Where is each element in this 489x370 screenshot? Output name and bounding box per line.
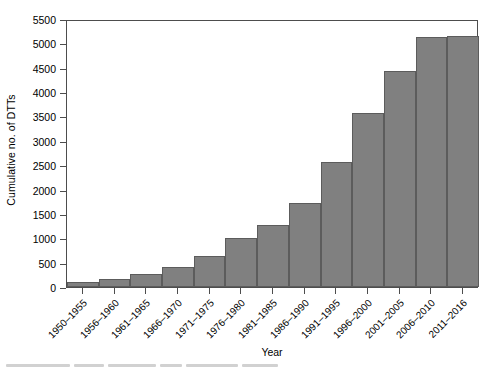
caption-smudge	[242, 364, 278, 367]
y-axis-tick-label: 3500	[16, 112, 56, 123]
y-axis-tick-label: 1500	[16, 210, 56, 221]
y-axis-tick	[60, 288, 66, 289]
x-axis-tick	[430, 288, 431, 294]
caption-smudge	[186, 364, 238, 367]
bar	[384, 71, 416, 287]
y-axis-tick-label: 5500	[16, 15, 56, 26]
x-axis-tick	[82, 288, 83, 294]
bar	[257, 225, 289, 287]
x-axis-tick	[304, 288, 305, 294]
caption-smudge	[74, 364, 104, 367]
bar	[162, 267, 194, 287]
x-axis-tick	[145, 288, 146, 294]
y-axis-tick-label: 4000	[16, 88, 56, 99]
bar-series	[67, 21, 477, 287]
y-axis-tick-label: 2500	[16, 161, 56, 172]
x-axis-tick	[177, 288, 178, 294]
bar	[225, 238, 257, 287]
x-axis-tick	[209, 288, 210, 294]
bar	[352, 113, 384, 287]
y-axis-tick-label: 1000	[16, 234, 56, 245]
caption-smudge	[160, 364, 182, 367]
x-axis-tick	[462, 288, 463, 294]
bar	[99, 279, 131, 287]
caption-strip	[0, 362, 489, 370]
y-axis-tick-label: 2000	[16, 186, 56, 197]
bar	[130, 274, 162, 287]
bar	[416, 37, 448, 287]
bar-chart-figure: Cumulative no. of DTTs 05001000150020002…	[0, 0, 489, 370]
x-axis-tick	[367, 288, 368, 294]
y-axis-tick-label: 3000	[16, 137, 56, 148]
bar	[67, 282, 99, 287]
plot-area	[66, 20, 478, 288]
bar	[321, 162, 353, 287]
bar	[194, 256, 226, 287]
y-axis-tick-label: 5000	[16, 39, 56, 50]
x-axis-title: Year	[66, 346, 478, 358]
x-axis-tick	[335, 288, 336, 294]
y-axis-tick-label: 500	[16, 259, 56, 270]
x-axis-tick	[114, 288, 115, 294]
caption-smudge	[108, 364, 156, 367]
x-axis-tick	[240, 288, 241, 294]
y-axis-tick-label: 4500	[16, 64, 56, 75]
bar	[289, 203, 321, 287]
caption-smudge	[6, 364, 70, 367]
y-axis-tick-label: 0	[16, 283, 56, 294]
x-axis-tick	[272, 288, 273, 294]
x-axis-tick	[399, 288, 400, 294]
bar	[447, 36, 479, 287]
